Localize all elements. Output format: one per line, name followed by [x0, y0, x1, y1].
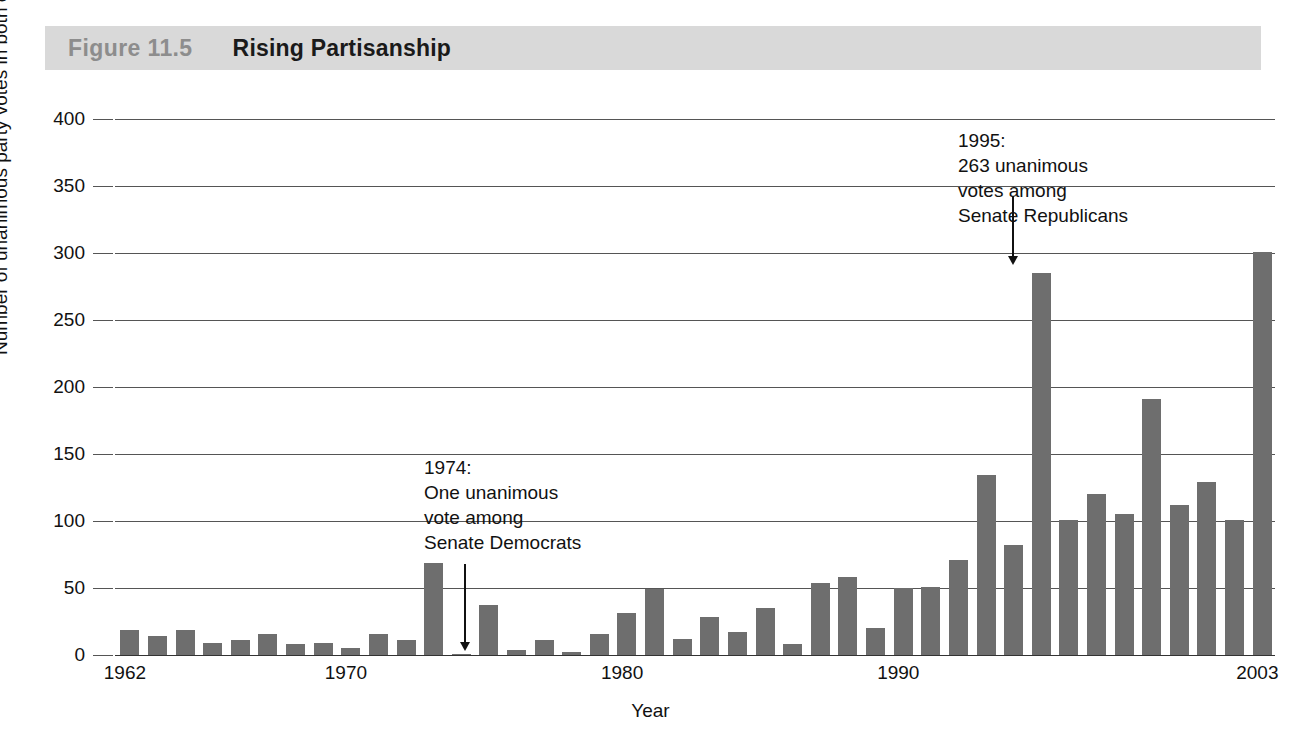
y-tick-dash-50 [93, 588, 113, 589]
annotation-1995-arrow-head [1008, 256, 1018, 265]
annotation-1974: 1974: One unanimous vote among Senate De… [424, 455, 581, 555]
y-tick-dash-250 [93, 320, 113, 321]
bar-1979 [590, 634, 609, 655]
y-tick-label-0: 0 [15, 644, 85, 666]
y-tick-label-200: 200 [15, 376, 85, 398]
bar-1984 [728, 632, 747, 655]
bar-1988 [838, 577, 857, 655]
x-tick-label-1980: 1980 [601, 662, 643, 684]
y-tick-label-50: 50 [15, 577, 85, 599]
y-tick-dash-150 [93, 454, 113, 455]
y-tick-label-400: 400 [15, 108, 85, 130]
bar-1980 [617, 613, 636, 655]
bar-1966 [231, 640, 250, 655]
bar-chart: Number of unanimous party votes in both … [0, 0, 1301, 743]
bar-1996 [1059, 520, 1078, 655]
y-tick-dash-200 [93, 387, 113, 388]
bar-1965 [203, 643, 222, 655]
annotation-1974-arrow-head [460, 642, 470, 651]
bar-1998 [1115, 514, 1134, 655]
bar-1995 [1032, 273, 1051, 655]
annotation-1995-arrow-line [1012, 196, 1014, 258]
y-tick-dash-300 [93, 253, 113, 254]
x-axis-line [115, 655, 1275, 656]
bar-1994 [1004, 545, 1023, 655]
bar-1989 [866, 628, 885, 655]
bar-1977 [535, 640, 554, 655]
bar-1981 [645, 589, 664, 655]
bar-1986 [783, 644, 802, 655]
bar-1972 [397, 640, 416, 655]
y-tick-dash-350 [93, 186, 113, 187]
bar-1993 [977, 475, 996, 655]
bar-1975 [479, 605, 498, 655]
bar-2003 [1253, 252, 1272, 655]
bar-1962 [120, 630, 139, 655]
bar-1970 [341, 648, 360, 655]
bar-2000 [1170, 505, 1189, 655]
y-tick-label-250: 250 [15, 309, 85, 331]
x-axis-label: Year [0, 700, 1301, 722]
annotation-1974-arrow-line [464, 564, 466, 644]
bar-1990 [894, 588, 913, 655]
bar-1968 [286, 644, 305, 655]
bar-2002 [1225, 520, 1244, 655]
y-tick-label-350: 350 [15, 175, 85, 197]
bar-1973 [424, 563, 443, 655]
bar-1985 [756, 608, 775, 655]
bar-1997 [1087, 494, 1106, 655]
y-tick-dash-0 [93, 655, 113, 656]
y-tick-label-150: 150 [15, 443, 85, 465]
x-tick-label-1970: 1970 [325, 662, 367, 684]
bar-1967 [258, 634, 277, 655]
y-tick-label-300: 300 [15, 242, 85, 264]
bar-1992 [949, 560, 968, 655]
y-tick-dash-100 [93, 521, 113, 522]
bar-1963 [148, 636, 167, 655]
annotation-1995: 1995: 263 unanimous votes among Senate R… [958, 128, 1128, 228]
bar-2001 [1197, 482, 1216, 655]
bar-1999 [1142, 399, 1161, 655]
y-tick-dash-400 [93, 119, 113, 120]
x-tick-label-1990: 1990 [877, 662, 919, 684]
x-tick-label-1962: 1962 [104, 662, 146, 684]
y-tick-label-100: 100 [15, 510, 85, 532]
bar-1971 [369, 634, 388, 655]
x-tick-label-2003: 2003 [1236, 662, 1278, 684]
bar-1964 [176, 630, 195, 655]
bar-1982 [673, 639, 692, 655]
bar-1987 [811, 583, 830, 655]
bar-1983 [700, 617, 719, 655]
bar-1969 [314, 643, 333, 655]
y-axis-label: Number of unanimous party votes in both … [0, 0, 12, 355]
bar-1991 [921, 587, 940, 655]
